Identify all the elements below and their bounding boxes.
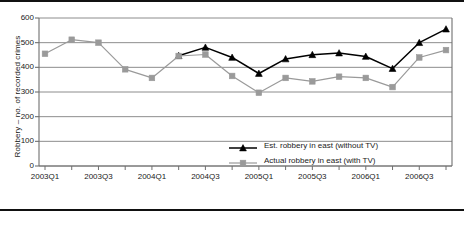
data-point-marker	[283, 75, 289, 81]
y-tick-label: 100	[2, 136, 34, 145]
x-tick-label: 2003Q3	[75, 172, 121, 181]
data-point-marker	[256, 90, 262, 96]
data-point-marker	[176, 53, 182, 59]
legend-label: Actual robbery in east (with TV)	[264, 156, 375, 165]
y-tick-label: 500	[2, 38, 34, 47]
y-tick-label: 400	[2, 62, 34, 71]
x-tick-label: 2006Q3	[396, 172, 442, 181]
data-point-marker	[443, 47, 449, 53]
x-tick-label: 2004Q1	[129, 172, 175, 181]
data-point-marker	[42, 51, 48, 57]
legend-item: Actual robbery in east (with TV)	[228, 153, 378, 168]
y-tick-label: 200	[2, 112, 34, 121]
y-tick-label: 300	[2, 87, 34, 96]
plot-area	[0, 0, 464, 226]
data-point-marker	[390, 84, 396, 90]
data-point-marker	[310, 79, 316, 85]
data-point-marker	[149, 75, 155, 81]
legend-item: Est. robbery in east (without TV)	[228, 138, 378, 153]
legend-square-icon	[228, 155, 258, 167]
x-tick-label: 2005Q1	[236, 172, 282, 181]
data-point-marker	[69, 37, 75, 43]
y-tick-label: 0	[2, 161, 34, 170]
data-point-marker	[255, 70, 262, 76]
legend-triangle-icon	[228, 140, 258, 152]
chart-legend: Est. robbery in east (without TV)Actual …	[228, 138, 378, 168]
data-point-marker	[336, 74, 342, 80]
data-point-marker	[416, 55, 422, 61]
x-tick-label: 2004Q3	[182, 172, 228, 181]
data-point-marker	[240, 160, 246, 166]
data-point-marker	[96, 40, 102, 46]
y-tick-label: 600	[2, 13, 34, 22]
x-tick-label: 2005Q3	[289, 172, 335, 181]
data-point-marker	[229, 73, 235, 79]
data-point-marker	[443, 26, 450, 32]
x-tick-label: 2003Q1	[22, 172, 68, 181]
x-tick-label: 2006Q1	[343, 172, 389, 181]
legend-label: Est. robbery in east (without TV)	[264, 141, 378, 150]
chart-figure: Robbery – no. of recorded crimes 6005004…	[0, 0, 464, 226]
data-point-marker	[202, 44, 209, 50]
data-point-marker	[363, 75, 369, 81]
data-point-marker	[203, 52, 209, 58]
data-point-marker	[122, 67, 128, 73]
